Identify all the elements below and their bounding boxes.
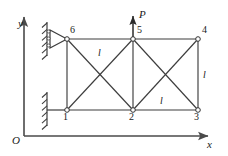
length-right-vertical: l	[203, 70, 206, 80]
hatch-stroke	[42, 93, 47, 98]
hatch-stroke	[42, 125, 47, 130]
hatch-stroke	[42, 112, 47, 117]
node-label-3: 3	[194, 112, 199, 122]
roller-circle	[47, 30, 50, 33]
node-label-4: 4	[202, 25, 207, 35]
hatch-stroke	[42, 55, 47, 60]
hatch-stroke	[42, 49, 47, 54]
load-label-P: P	[139, 9, 146, 20]
pin-support-node-6	[42, 22, 67, 60]
node-label-2: 2	[129, 112, 134, 122]
roller-circle	[47, 37, 50, 40]
hatch-stroke	[42, 23, 47, 28]
node-label-5: 5	[137, 25, 142, 35]
node-label-6: 6	[70, 25, 75, 35]
truss-diagram-figure: y x O P 123456lll	[0, 0, 228, 156]
y-axis-label: y	[18, 18, 23, 29]
hatch-stroke	[42, 99, 47, 104]
length-bottom-right-panel: l	[160, 96, 163, 106]
roller-circle	[47, 44, 50, 47]
hatch-stroke	[42, 42, 47, 47]
fixed-support-hatching	[42, 93, 47, 130]
pin-support-hatching	[42, 23, 47, 60]
truss-joint-6	[65, 37, 70, 42]
origin-label: O	[12, 135, 20, 146]
coordinate-axes	[24, 17, 208, 136]
figure-canvas	[0, 0, 228, 156]
x-axis-label: x	[207, 139, 212, 150]
truss-joint-4	[196, 37, 201, 42]
node-label-1: 1	[63, 112, 68, 122]
hatch-stroke	[42, 36, 47, 41]
hatch-stroke	[42, 106, 47, 111]
hatch-stroke	[42, 119, 47, 124]
hatch-stroke	[42, 29, 47, 34]
truss-joint-5	[131, 37, 136, 42]
truss-members	[67, 39, 198, 110]
length-top-left-panel: l	[98, 48, 101, 58]
